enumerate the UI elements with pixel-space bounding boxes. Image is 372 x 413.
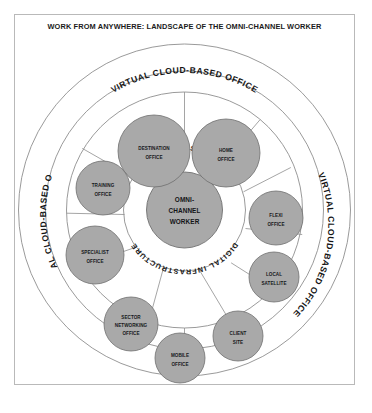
outer-ring-label-top: VIRTUAL CLOUD-BASED OFFICE (109, 65, 260, 95)
node-label-line1: SECTOR (121, 315, 141, 320)
node-label-line2: OFFICE (217, 157, 234, 162)
page-title: WORK FROM ANYWHERE: LANDSCAPE OF THE OMN… (14, 22, 355, 31)
hub-label-line3: WORKER (170, 218, 200, 225)
node-circle[interactable] (213, 311, 263, 361)
node-circle[interactable] (66, 226, 124, 284)
node-label-line2: OFFICE (145, 155, 162, 160)
node-label-line2: OFFICE (94, 192, 111, 197)
node-label-line2: OFFICE (86, 259, 103, 264)
node-label-line1: HOME (219, 148, 233, 153)
node-circle[interactable] (249, 191, 303, 245)
node-label-line2: OFFICE (267, 222, 284, 227)
node-label-line1: TRAINING (92, 183, 115, 188)
node-label-line3: OFFICE (122, 331, 139, 336)
node-label-line1: CLIENT (230, 331, 247, 336)
node-label-line1: FLEXI (269, 213, 282, 218)
node-client-site[interactable]: CLIENT SITE (213, 311, 263, 361)
node-mobile-office[interactable]: MOBILE OFFICE (155, 333, 205, 383)
node-training-office[interactable]: TRAINING OFFICE (76, 161, 130, 215)
node-label-line2: NETWORKING (115, 323, 148, 328)
node-circle[interactable] (118, 115, 190, 187)
node-circle[interactable] (192, 119, 260, 187)
node-circle[interactable] (249, 252, 299, 302)
outer-ring-label-right: VIRTUAL CLOUD-BASED OFFICE (291, 171, 336, 319)
node-flexi-office[interactable]: FLEXI OFFICE (249, 191, 303, 245)
node-label-line2: SITE (233, 340, 243, 345)
node-local-satellite[interactable]: LOCAL SATELLITE (249, 252, 299, 302)
diagram-page: WORK FROM ANYWHERE: LANDSCAPE OF THE OMN… (0, 0, 372, 413)
node-home-office[interactable]: HOME OFFICE (192, 119, 260, 187)
node-label-line2: OFFICE (171, 362, 188, 367)
node-label-line1: MOBILE (171, 353, 189, 358)
node-label-line1: LOCAL (266, 272, 282, 277)
node-circle[interactable] (155, 333, 205, 383)
hub-label-line1: OMNI- (175, 196, 194, 203)
node-label-line1: SPECIALIST (81, 250, 109, 255)
node-specialist-office[interactable]: SPECIALIST OFFICE (66, 226, 124, 284)
omni-channel-worker-diagram: VIRTUAL CLOUD-BASED OFFICE VIRTUAL CLOUD… (14, 38, 355, 385)
hub-label-line2: CHANNEL (169, 207, 201, 214)
node-destination-office[interactable]: DESTINATION OFFICE (118, 115, 190, 187)
node-circle[interactable] (76, 161, 130, 215)
spoke-6 (199, 270, 229, 321)
node-sector-networking-office[interactable]: SECTOR NETWORKING OFFICE (104, 297, 158, 351)
node-label-line1: DESTINATION (138, 146, 170, 151)
node-label-line2: SATELLITE (261, 281, 286, 286)
